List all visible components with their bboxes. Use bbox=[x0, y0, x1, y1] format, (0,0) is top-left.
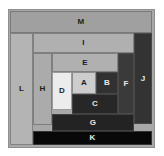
rect-j[interactable]: J bbox=[134, 33, 152, 124]
rect-label-a: A bbox=[81, 79, 87, 87]
rect-label-c: C bbox=[92, 100, 98, 108]
rect-label-f: F bbox=[123, 80, 128, 88]
rect-label-d: D bbox=[59, 87, 65, 95]
rect-label-h: H bbox=[40, 85, 46, 93]
rect-label-g: G bbox=[90, 119, 96, 127]
rect-label-l: L bbox=[19, 85, 24, 93]
rect-label-m: M bbox=[78, 18, 85, 26]
diagram-canvas: MLJIHEFDABCGK bbox=[0, 0, 164, 156]
rect-b[interactable]: B bbox=[96, 72, 118, 94]
rect-label-b: B bbox=[104, 79, 110, 87]
rect-c[interactable]: C bbox=[72, 94, 118, 114]
rect-a[interactable]: A bbox=[72, 72, 96, 94]
rect-f[interactable]: F bbox=[118, 53, 134, 114]
rect-k[interactable]: K bbox=[33, 131, 152, 145]
rect-h[interactable]: H bbox=[33, 53, 52, 125]
rect-d[interactable]: D bbox=[52, 72, 72, 110]
rect-i[interactable]: I bbox=[33, 33, 134, 53]
rect-g[interactable]: G bbox=[52, 114, 134, 131]
rect-l[interactable]: L bbox=[10, 33, 33, 145]
rect-label-k: K bbox=[90, 134, 96, 142]
rect-m[interactable]: M bbox=[10, 11, 152, 33]
rect-label-j: J bbox=[141, 75, 146, 83]
rect-e[interactable]: E bbox=[52, 53, 118, 72]
rect-label-i: I bbox=[82, 39, 84, 47]
rect-label-e: E bbox=[82, 59, 88, 67]
